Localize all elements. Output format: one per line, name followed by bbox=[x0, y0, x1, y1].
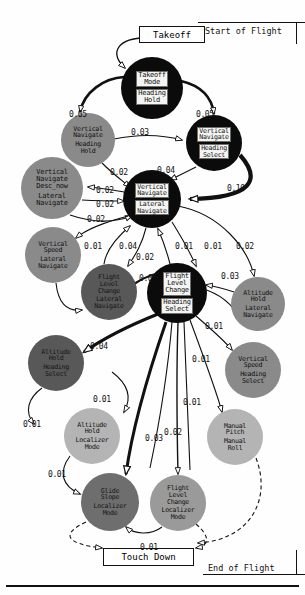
state-node-vnav_hdg_hold[interactable]: VerticalNavigateHeadingHold bbox=[61, 113, 115, 167]
state-node-label-top: AltitudeHold bbox=[243, 290, 272, 303]
edge-probability-label: 0.01 bbox=[48, 470, 66, 479]
edge-probability-label: 0.02 bbox=[96, 186, 114, 195]
state-label-line4: Navigate bbox=[36, 200, 67, 207]
state-node-flch_loc[interactable]: FlightLevelChangeLocalizerMode bbox=[150, 475, 206, 531]
state-node-label-bottom: LocalizerMode bbox=[93, 503, 126, 516]
state-label-line4: Select bbox=[240, 378, 266, 385]
state-node-label-top: VerticalNavigate bbox=[135, 183, 168, 198]
state-node-vspd_lnav[interactable]: VerticalSpeedLateralNavigate bbox=[25, 227, 81, 283]
edge-probability-label: 0.01 bbox=[204, 242, 222, 251]
state-node-label-bottom: LocalizerMode bbox=[75, 437, 108, 450]
state-node-label-top: AltitudeHold bbox=[77, 422, 106, 435]
state-label-line2: Hold bbox=[77, 428, 106, 435]
state-label-line4: Select bbox=[43, 371, 69, 378]
edge-probability-label: 0.04 bbox=[119, 242, 137, 251]
edge-probability-label: 0.04 bbox=[157, 166, 175, 175]
edge-probability-label: 0.01 bbox=[93, 395, 111, 404]
state-label-line2: Slope bbox=[101, 494, 119, 501]
state-label-line4: Navigate bbox=[243, 312, 272, 319]
edge-probability-label: 0.05 bbox=[69, 110, 87, 119]
state-node-label-bottom: LateralNavigate bbox=[36, 193, 67, 207]
state-label-line4: Roll bbox=[224, 445, 246, 452]
state-node-label-top: VerticalNavigate bbox=[73, 126, 102, 139]
edge-probability-label: 0.02 bbox=[96, 200, 114, 209]
edge-probability-label: 0.02 bbox=[164, 428, 182, 437]
edge-probability-label: 0.02 bbox=[110, 168, 128, 177]
state-node-label-top: VerticalNavigate bbox=[197, 127, 230, 142]
state-node-vnav_lnav[interactable]: VerticalNavigateLateralNavigate bbox=[123, 170, 181, 228]
state-node-label-bottom: HeadingHold bbox=[136, 89, 167, 105]
state-node-label-top: TakeoffMode bbox=[136, 71, 167, 87]
edge-probability-label: 0.01 bbox=[183, 398, 201, 407]
edge-probability-label: 0.01 bbox=[84, 242, 102, 251]
state-label-line2: Pitch bbox=[224, 429, 246, 436]
edge-probability-label: 0.03 bbox=[131, 128, 149, 137]
state-label-line4: Mode bbox=[161, 514, 194, 521]
state-node-flch_lnav[interactable]: FlightLevelChangeLateralNavigate bbox=[81, 264, 137, 320]
state-node-label-bottom: HeadingSelect bbox=[240, 371, 266, 384]
state-label-line2: Hold bbox=[243, 296, 272, 303]
state-label-line2b: Desc_now bbox=[36, 183, 67, 190]
state-label-line4: Hold bbox=[138, 97, 165, 104]
edge-probability-label: 0.01 bbox=[205, 322, 223, 331]
state-node-vspd_hdg_sel[interactable]: VerticalSpeedHeadingSelect bbox=[225, 342, 281, 398]
state-node-vnav_hdg_sel[interactable]: VerticalNavigateHeadingSelect bbox=[186, 115, 242, 171]
edge-probability-label: 0.05 bbox=[196, 110, 214, 119]
state-label-line4: Select bbox=[163, 306, 190, 313]
state-node-label-top: GlideSlope bbox=[101, 488, 119, 501]
edge-probability-label: 0.01 bbox=[175, 242, 193, 251]
state-node-vnav_desc[interactable]: VerticalNavigateDesc_nowLateralNavigate bbox=[21, 157, 83, 219]
state-label-line2: Speed bbox=[38, 247, 67, 254]
state-label-line4: Select bbox=[201, 152, 227, 159]
edge-probability-label: 0.02 bbox=[236, 242, 254, 251]
state-node-alt_loc[interactable]: AltitudeHoldLocalizerMode bbox=[64, 408, 120, 464]
edge-probability-label: 0.04 bbox=[90, 342, 108, 351]
node-layer: TakeoffModeHeadingHoldVerticalNavigateHe… bbox=[0, 0, 305, 595]
state-node-label-top: VerticalSpeed bbox=[38, 241, 67, 254]
state-node-label-top: FlightLevelChange bbox=[98, 274, 120, 294]
edge-probability-label: 0.03 bbox=[221, 272, 239, 281]
state-node-flch_hdg_sel[interactable]: FlightLevelChangeHeadingSelect bbox=[147, 263, 207, 323]
state-label-line2: Navigate bbox=[73, 132, 102, 139]
state-node-glide_loc[interactable]: GlideSlopeLocalizerMode bbox=[81, 473, 139, 531]
state-node-label-top: FlightLevelChange bbox=[167, 485, 189, 505]
state-label-line2: Navigate bbox=[137, 190, 166, 197]
state-label-line2b: Change bbox=[165, 287, 189, 294]
state-node-label-bottom: HeadingSelect bbox=[43, 364, 69, 377]
edge-probability-label: 0.02 bbox=[136, 253, 154, 262]
state-node-label-bottom: LateralNavigate bbox=[243, 305, 272, 318]
state-label-line2: Hold bbox=[41, 355, 70, 362]
diagram-canvas: Start of Flight End of Flight bbox=[0, 0, 305, 595]
state-node-label-bottom: ManualRoll bbox=[224, 438, 246, 451]
state-node-manual[interactable]: ManualPitchManualRoll bbox=[207, 409, 263, 465]
state-node-label-top: AltitudeHold bbox=[41, 349, 70, 362]
state-node-label-bottom: LateralNavigate bbox=[94, 296, 123, 309]
state-label-line4: Mode bbox=[93, 510, 126, 517]
edge-probability-label: 0.10 bbox=[227, 184, 245, 193]
state-label-line2: Speed bbox=[238, 362, 267, 369]
state-label-line4: Hold bbox=[75, 148, 101, 155]
state-node-takeoff_mode[interactable]: TakeoffModeHeadingHold bbox=[121, 57, 183, 119]
state-label-line4: Navigate bbox=[137, 208, 166, 215]
state-node-label-top: VerticalNavigateDesc_now bbox=[36, 169, 67, 190]
edge-probability-label: 0.01 bbox=[23, 420, 41, 429]
edge-probability-label: 0.01 bbox=[140, 543, 158, 552]
state-node-alt_lnav[interactable]: AltitudeHoldLateralNavigate bbox=[231, 277, 285, 331]
state-label-line4: Navigate bbox=[38, 263, 67, 270]
edge-probability-label: 0.01 bbox=[192, 355, 210, 364]
state-label-line4: Navigate bbox=[94, 303, 123, 310]
state-label-line2: Navigate bbox=[199, 134, 228, 141]
state-node-label-bottom: LateralNavigate bbox=[38, 256, 67, 269]
state-node-label-bottom: LocalizerMode bbox=[161, 507, 194, 520]
state-label-line2: Mode bbox=[138, 79, 165, 86]
state-label-line2b: Change bbox=[98, 288, 120, 295]
state-node-label-bottom: HeadingSelect bbox=[199, 144, 229, 159]
state-node-label-bottom: HeadingHold bbox=[75, 141, 101, 154]
state-label-line4: Mode bbox=[75, 444, 108, 451]
state-node-alt_hdg_sel[interactable]: AltitudeHoldHeadingSelect bbox=[28, 335, 84, 391]
state-node-label-bottom: LateralNavigate bbox=[135, 200, 168, 215]
state-node-label-top: FlightLevelChange bbox=[163, 272, 191, 295]
state-node-label-top: ManualPitch bbox=[224, 423, 246, 436]
state-node-label-bottom: HeadingSelect bbox=[161, 298, 192, 314]
edge-probability-label: 0.05 bbox=[139, 274, 157, 283]
